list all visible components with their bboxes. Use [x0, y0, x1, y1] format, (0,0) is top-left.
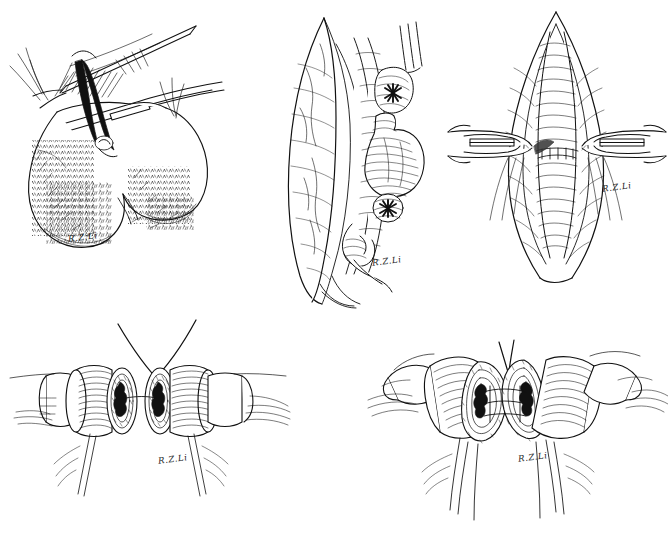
right-vas-shaft — [208, 373, 253, 427]
panel-scrotum-delivery: R.Z.Li — [0, 0, 240, 270]
panel-approximating-clamps: R.Z.Li — [448, 6, 666, 286]
panel-cut-ends-sutures: R.Z.Li — [10, 318, 310, 518]
panel-vas-exteriorized: R.Z.Li — [276, 8, 456, 308]
right-vas-shaft — [584, 363, 641, 404]
ring-forceps-icon — [33, 26, 196, 108]
vasal-vessel-strands — [78, 434, 206, 496]
hand-hatching — [55, 34, 160, 97]
vasal-vessel-shading — [422, 454, 594, 494]
panel-anastomosis-sutured: R.Z.Li — [368, 330, 668, 530]
flap-lower-pole — [320, 276, 360, 308]
wound-outline — [508, 12, 603, 283]
forceps-tips-icon — [396, 22, 422, 73]
scrotal-skin-flap — [288, 18, 336, 304]
vasal-vessel-shading — [54, 446, 228, 486]
